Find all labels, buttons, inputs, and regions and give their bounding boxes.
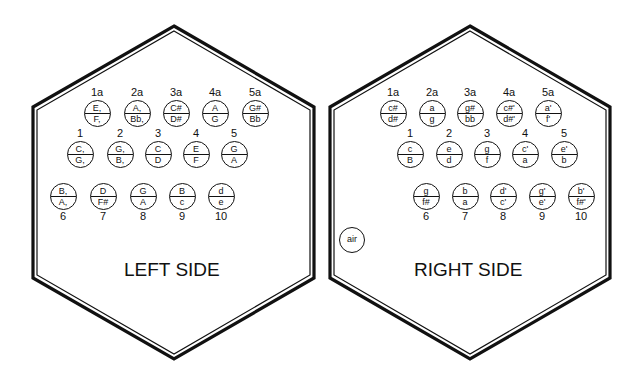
pull-note: a bbox=[453, 197, 478, 207]
button-number-label: 5 bbox=[219, 127, 249, 139]
button-number-label: 10 bbox=[206, 210, 236, 222]
push-note: a' bbox=[536, 103, 561, 113]
left-button-4a[interactable]: AG bbox=[202, 100, 229, 127]
push-note: g bbox=[475, 144, 500, 154]
push-note: g' bbox=[530, 186, 555, 196]
pull-note: bb bbox=[458, 114, 483, 124]
right-side-title: RIGHT SIDE bbox=[414, 259, 522, 281]
push-note: e' bbox=[552, 144, 577, 154]
push-note: b' bbox=[569, 186, 594, 196]
right-button-4[interactable]: c'a bbox=[512, 141, 539, 168]
push-note: D bbox=[91, 186, 116, 196]
pull-note: e' bbox=[530, 197, 555, 207]
pull-note: f# bbox=[414, 197, 439, 207]
button-number-label: 8 bbox=[488, 210, 518, 222]
right-button-6[interactable]: gf# bbox=[413, 183, 440, 210]
pull-note: D# bbox=[164, 114, 189, 124]
pull-note: F# bbox=[91, 197, 116, 207]
right-button-1[interactable]: cB bbox=[397, 141, 424, 168]
push-note: e bbox=[437, 144, 462, 154]
push-note: c bbox=[398, 144, 423, 154]
left-button-9[interactable]: Bc bbox=[169, 183, 196, 210]
push-note: c# bbox=[381, 103, 406, 113]
left-button-7[interactable]: DF# bbox=[90, 183, 117, 210]
left-button-3[interactable]: CD bbox=[145, 141, 172, 168]
pull-note: f' bbox=[536, 114, 561, 124]
button-number-label: 4 bbox=[181, 127, 211, 139]
push-note: C bbox=[146, 144, 171, 154]
push-note: a bbox=[420, 103, 445, 113]
button-number-label: 4a bbox=[200, 86, 230, 98]
button-number-label: 8 bbox=[128, 210, 158, 222]
push-note: c#' bbox=[497, 103, 522, 113]
pull-note: c bbox=[170, 197, 195, 207]
push-note: G bbox=[222, 144, 247, 154]
push-note: g# bbox=[458, 103, 483, 113]
button-number-label: 3 bbox=[472, 127, 502, 139]
right-button-9[interactable]: g'e' bbox=[529, 183, 556, 210]
push-note: d' bbox=[491, 186, 516, 196]
button-number-label: 6 bbox=[48, 210, 78, 222]
right-button-7[interactable]: ba bbox=[452, 183, 479, 210]
push-note: C# bbox=[164, 103, 189, 113]
pull-note: d bbox=[437, 155, 462, 165]
pull-note: b bbox=[552, 155, 577, 165]
button-number-label: 5a bbox=[533, 86, 563, 98]
right-button-4a[interactable]: c#'d#' bbox=[496, 100, 523, 127]
left-button-1[interactable]: C,G, bbox=[67, 141, 94, 168]
button-number-label: 1a bbox=[378, 86, 408, 98]
right-button-8[interactable]: d'c' bbox=[490, 183, 517, 210]
right-button-3a[interactable]: g#bb bbox=[457, 100, 484, 127]
left-button-2a[interactable]: A,Bb, bbox=[124, 100, 151, 127]
push-note: c' bbox=[513, 144, 538, 154]
button-number-label: 2a bbox=[122, 86, 152, 98]
pull-note: B bbox=[398, 155, 423, 165]
left-button-8[interactable]: GA bbox=[130, 183, 157, 210]
right-button-5[interactable]: e'b bbox=[551, 141, 578, 168]
right-button-5a[interactable]: a'f' bbox=[535, 100, 562, 127]
left-button-10[interactable]: de bbox=[208, 183, 235, 210]
button-number-label: 4 bbox=[510, 127, 540, 139]
pull-note: Bb, bbox=[125, 114, 150, 124]
push-note: g bbox=[414, 186, 439, 196]
right-button-3[interactable]: gf bbox=[474, 141, 501, 168]
button-number-label: 2 bbox=[105, 127, 135, 139]
push-note: d bbox=[209, 186, 234, 196]
push-note: E bbox=[184, 144, 209, 154]
button-number-label: 9 bbox=[527, 210, 557, 222]
push-note: E, bbox=[85, 103, 110, 113]
pull-note: G bbox=[203, 114, 228, 124]
push-note: B bbox=[170, 186, 195, 196]
button-number-label: 6 bbox=[411, 210, 441, 222]
right-button-2[interactable]: ed bbox=[436, 141, 463, 168]
button-number-label: 3a bbox=[455, 86, 485, 98]
right-button-2a[interactable]: ag bbox=[419, 100, 446, 127]
push-note: A bbox=[203, 103, 228, 113]
pull-note: A bbox=[222, 155, 247, 165]
left-button-2[interactable]: G,B, bbox=[107, 141, 134, 168]
right-button-10[interactable]: b'f#' bbox=[568, 183, 595, 210]
push-note: G bbox=[131, 186, 156, 196]
left-side-title: LEFT SIDE bbox=[124, 259, 220, 281]
left-button-6[interactable]: B,A, bbox=[50, 183, 77, 210]
button-number-label: 2 bbox=[434, 127, 464, 139]
pull-note: A, bbox=[51, 197, 76, 207]
air-button[interactable]: air bbox=[339, 227, 365, 253]
button-number-label: 4a bbox=[494, 86, 524, 98]
button-number-label: 9 bbox=[167, 210, 197, 222]
push-note: b bbox=[453, 186, 478, 196]
button-number-label: 5a bbox=[240, 86, 270, 98]
button-number-label: 5 bbox=[549, 127, 579, 139]
left-button-4[interactable]: EF bbox=[183, 141, 210, 168]
pull-note: d# bbox=[381, 114, 406, 124]
pull-note: f bbox=[475, 155, 500, 165]
push-note: A, bbox=[125, 103, 150, 113]
pull-note: F bbox=[184, 155, 209, 165]
push-note: C, bbox=[68, 144, 93, 154]
left-button-5[interactable]: GA bbox=[221, 141, 248, 168]
left-button-1a[interactable]: E,F, bbox=[84, 100, 111, 127]
left-button-5a[interactable]: G#Bb bbox=[242, 100, 269, 127]
pull-note: e bbox=[209, 197, 234, 207]
right-button-1a[interactable]: c#d# bbox=[380, 100, 407, 127]
left-button-3a[interactable]: C#D# bbox=[163, 100, 190, 127]
